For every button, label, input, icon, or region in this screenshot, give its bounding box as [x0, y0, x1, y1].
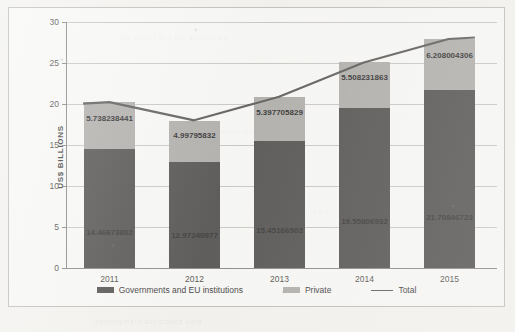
- y-axis-tick-label: 30: [50, 17, 59, 27]
- legend-label: Governments and EU institutions: [119, 285, 243, 295]
- x-axis-tick-label: 2015: [440, 274, 459, 284]
- legend-line-icon: [371, 290, 393, 291]
- chart-legend: Governments and EU institutions Private …: [9, 285, 504, 295]
- legend-item-private[interactable]: Private: [283, 285, 331, 295]
- legend-label: Private: [305, 285, 331, 295]
- x-axis-tick-label: 2014: [355, 274, 374, 284]
- y-axis-tick-label: 25: [50, 58, 59, 68]
- y-axis-title: US$ BILLIONS: [56, 125, 65, 189]
- plot-area: 051015202530 14.466738025.73823844120111…: [66, 22, 491, 268]
- legend-item-total[interactable]: Total: [371, 285, 416, 295]
- gridline: [67, 268, 497, 269]
- legend-label: Total: [398, 285, 416, 295]
- plot-axes: 051015202530 14.466738025.73823844120111…: [66, 22, 491, 268]
- total-line-series: [67, 22, 491, 267]
- total-line[interactable]: [83, 38, 475, 121]
- x-axis-tick-label: 2011: [100, 274, 118, 284]
- y-axis-tick-label: 20: [50, 99, 59, 109]
- legend-item-governments[interactable]: Governments and EU institutions: [97, 285, 243, 295]
- legend-swatch-icon: [283, 287, 300, 293]
- x-axis-tick-label: 2013: [270, 274, 289, 284]
- y-axis-tick-label: 0: [54, 263, 59, 273]
- legend-swatch-icon: [97, 287, 114, 293]
- x-axis-tick-label: 2012: [185, 274, 204, 284]
- y-axis-tick-label: 5: [54, 222, 59, 232]
- y-axis-tick: [62, 268, 67, 269]
- chart-container: US$ BILLIONS 051015202530 14.466738025.7…: [8, 7, 505, 307]
- ghost-text-line: development assistance data: [95, 318, 202, 325]
